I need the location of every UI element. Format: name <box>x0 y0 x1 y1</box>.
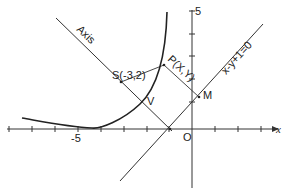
point-p <box>163 64 166 67</box>
focus-point <box>120 81 123 84</box>
m-label: M <box>203 89 212 101</box>
y-tick-label: 5 <box>195 5 201 17</box>
foot-m <box>198 96 201 99</box>
axis-label: Axis <box>75 23 99 46</box>
point-label: P(X,Y) <box>166 53 198 84</box>
origin-label: O <box>183 131 192 143</box>
diagram-canvas: Axis S(-3,2) P(X,Y) x-y+1=0 M V O x -5 5 <box>0 0 284 193</box>
directrix-label: x-y+1=0 <box>219 39 255 77</box>
focus-label: S(-3,2) <box>112 69 146 81</box>
x-axis-label: x <box>275 123 281 135</box>
vertex-label: V <box>147 95 155 107</box>
x-axis <box>7 126 279 132</box>
intersection-point <box>169 128 172 131</box>
x-tick-label: -5 <box>71 132 81 144</box>
